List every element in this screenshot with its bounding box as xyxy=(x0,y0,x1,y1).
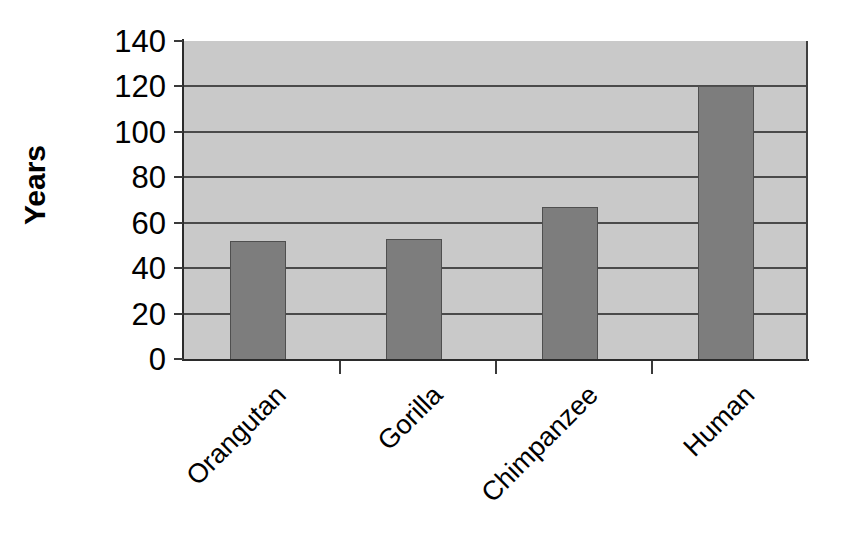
bar-chart: Years 020406080100120140 OrangutanGorill… xyxy=(0,0,841,547)
y-axis-tick-labels: 020406080100120140 xyxy=(64,0,174,547)
y-tick-label: 20 xyxy=(132,298,166,329)
y-tick-mark xyxy=(174,313,183,315)
x-axis-label: Orangutan xyxy=(180,380,292,492)
x-axis-label: Chimpanzee xyxy=(475,380,604,509)
y-tick-label: 60 xyxy=(132,207,166,238)
y-tick-label: 0 xyxy=(149,344,166,375)
y-tick-mark xyxy=(174,358,183,360)
plot-right-border xyxy=(806,41,808,361)
y-tick-mark xyxy=(174,131,183,133)
y-tick-label: 40 xyxy=(132,253,166,284)
y-tick-mark xyxy=(174,40,183,42)
x-tick-mark xyxy=(339,361,341,374)
bar xyxy=(386,239,442,359)
bar xyxy=(542,207,598,359)
bar xyxy=(698,86,754,359)
x-tick-mark xyxy=(495,361,497,374)
y-tick-label: 80 xyxy=(132,162,166,193)
x-axis-label: Gorilla xyxy=(372,380,449,457)
y-tick-label: 140 xyxy=(114,26,166,57)
y-axis-title-label: Years xyxy=(18,145,52,225)
x-axis-label: Human xyxy=(677,380,760,463)
y-tick-mark xyxy=(174,85,183,87)
y-tick-mark xyxy=(174,222,183,224)
y-tick-mark xyxy=(174,176,183,178)
y-tick-mark xyxy=(174,267,183,269)
y-tick-label: 120 xyxy=(114,71,166,102)
bar xyxy=(230,241,286,359)
y-tick-label: 100 xyxy=(114,116,166,147)
plot-area xyxy=(183,41,807,359)
y-axis-title: Years xyxy=(0,145,70,225)
x-tick-mark xyxy=(651,361,653,374)
